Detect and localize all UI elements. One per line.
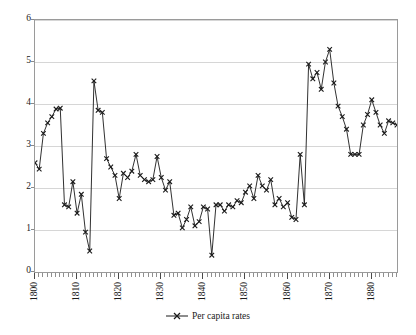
x-minor-tick-1855 xyxy=(266,273,267,277)
x-minor-tick-1862 xyxy=(295,273,296,277)
x-minor-tick-1812 xyxy=(85,273,86,277)
x-minor-tick-1834 xyxy=(177,273,178,277)
x-minor-tick-1858 xyxy=(278,273,279,277)
series-markers-0 xyxy=(35,47,397,257)
x-minor-tick-1814 xyxy=(93,273,94,277)
x-minor-tick-1865 xyxy=(308,273,309,277)
data-point-1800 xyxy=(35,161,37,166)
x-minor-tick-1846 xyxy=(228,273,229,277)
y-axis: 0123456 xyxy=(0,19,31,273)
data-point-1858 xyxy=(277,196,282,201)
x-minor-tick-1824 xyxy=(135,273,136,277)
data-point-1883 xyxy=(382,131,387,136)
x-minor-tick-1872 xyxy=(337,273,338,277)
chart-legend: Per capita rates xyxy=(0,310,416,324)
x-minor-tick-1829 xyxy=(156,273,157,277)
x-minor-tick-1804 xyxy=(51,273,52,277)
data-point-1881 xyxy=(374,110,379,115)
y-tick-label-2: 2 xyxy=(5,182,31,192)
data-point-1851 xyxy=(247,184,252,189)
x-minor-tick-1881 xyxy=(375,273,376,277)
series-line-0 xyxy=(35,49,397,255)
chart-container: 0123456 18001810182018301840185018601870… xyxy=(0,0,416,335)
x-minor-tick-1807 xyxy=(63,273,64,277)
x-minor-tick-1816 xyxy=(101,273,102,277)
x-minor-tick-1817 xyxy=(106,273,107,277)
x-minor-tick-1808 xyxy=(68,273,69,277)
x-minor-tick-1826 xyxy=(143,273,144,277)
x-major-tick-1860 xyxy=(287,273,288,279)
x-tick-label-1850: 1850 xyxy=(239,282,249,301)
x-minor-tick-1802 xyxy=(42,273,43,277)
data-point-1826 xyxy=(142,177,147,182)
x-minor-tick-1886 xyxy=(396,273,397,277)
x-minor-tick-1859 xyxy=(282,273,283,277)
x-minor-tick-1847 xyxy=(232,273,233,277)
data-point-1831 xyxy=(163,188,168,193)
data-point-1804 xyxy=(50,114,55,119)
x-minor-tick-1819 xyxy=(114,273,115,277)
x-minor-tick-1839 xyxy=(198,273,199,277)
x-tick-label-1880: 1880 xyxy=(366,282,376,301)
legend-marker-icon xyxy=(166,311,188,321)
data-point-1859 xyxy=(281,205,286,210)
x-major-tick-1870 xyxy=(329,273,330,279)
x-minor-tick-1863 xyxy=(299,273,300,277)
x-axis-ticks xyxy=(34,273,398,279)
y-tick-label-5: 5 xyxy=(5,56,31,66)
x-minor-tick-1805 xyxy=(55,273,56,277)
data-point-1848 xyxy=(235,198,240,203)
x-minor-tick-1821 xyxy=(122,273,123,277)
x-minor-tick-1813 xyxy=(89,273,90,277)
x-minor-tick-1876 xyxy=(354,273,355,277)
x-minor-tick-1841 xyxy=(207,273,208,277)
x-major-tick-1800 xyxy=(34,273,35,279)
x-minor-tick-1852 xyxy=(253,273,254,277)
x-tick-label-1800: 1800 xyxy=(29,282,39,301)
x-tick-label-1830: 1830 xyxy=(155,282,165,301)
x-minor-tick-1818 xyxy=(110,273,111,277)
x-minor-tick-1827 xyxy=(148,273,149,277)
x-minor-tick-1857 xyxy=(274,273,275,277)
x-major-tick-1850 xyxy=(244,273,245,279)
x-minor-tick-1867 xyxy=(316,273,317,277)
x-major-tick-1840 xyxy=(202,273,203,279)
data-point-1885 xyxy=(390,121,395,126)
data-point-1845 xyxy=(222,209,227,214)
x-minor-tick-1835 xyxy=(181,273,182,277)
x-minor-tick-1854 xyxy=(261,273,262,277)
x-minor-tick-1875 xyxy=(350,273,351,277)
x-tick-label-1810: 1810 xyxy=(71,282,81,301)
x-major-tick-1830 xyxy=(160,273,161,279)
data-point-1884 xyxy=(386,119,391,124)
data-point-1873 xyxy=(340,114,345,119)
x-minor-tick-1825 xyxy=(139,273,140,277)
x-minor-tick-1861 xyxy=(291,273,292,277)
x-minor-tick-1856 xyxy=(270,273,271,277)
x-minor-tick-1806 xyxy=(59,273,60,277)
x-minor-tick-1849 xyxy=(240,273,241,277)
x-minor-tick-1874 xyxy=(345,273,346,277)
data-point-1803 xyxy=(45,121,50,126)
x-major-tick-1810 xyxy=(76,273,77,279)
x-major-tick-1820 xyxy=(118,273,119,279)
y-tick-label-1: 1 xyxy=(5,224,31,234)
x-minor-tick-1838 xyxy=(194,273,195,277)
data-point-1855 xyxy=(264,188,269,193)
x-minor-tick-1828 xyxy=(152,273,153,277)
x-minor-tick-1879 xyxy=(367,273,368,277)
x-minor-tick-1873 xyxy=(341,273,342,277)
x-minor-tick-1823 xyxy=(131,273,132,277)
y-tick-label-6: 6 xyxy=(5,14,31,24)
x-minor-tick-1822 xyxy=(127,273,128,277)
x-minor-tick-1885 xyxy=(392,273,393,277)
x-minor-tick-1853 xyxy=(257,273,258,277)
y-tick-label-4: 4 xyxy=(5,98,31,108)
x-minor-tick-1831 xyxy=(164,273,165,277)
x-tick-label-1870: 1870 xyxy=(324,282,334,301)
x-minor-tick-1837 xyxy=(190,273,191,277)
x-minor-tick-1851 xyxy=(249,273,250,277)
x-major-tick-1880 xyxy=(371,273,372,279)
x-minor-tick-1811 xyxy=(80,273,81,277)
x-minor-tick-1877 xyxy=(358,273,359,277)
